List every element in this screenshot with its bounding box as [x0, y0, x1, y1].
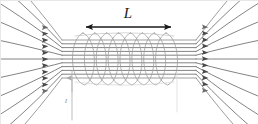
current-label: I	[64, 97, 68, 105]
figure-container: L I	[0, 0, 258, 124]
length-label: L	[123, 5, 132, 21]
solenoid-field-diagram: L I	[0, 0, 258, 124]
